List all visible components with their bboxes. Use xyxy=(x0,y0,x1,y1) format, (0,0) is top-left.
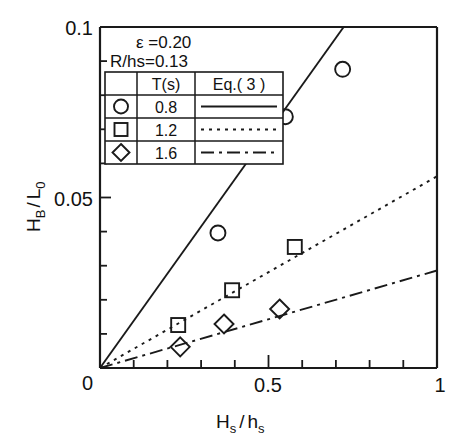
svg-text:Hs/hs: Hs/hs xyxy=(216,411,265,436)
legend-table: T(s)Eq.( 3 )0.81.21.6 xyxy=(105,72,283,164)
legend-annotations: ε =0.20 R/hs=0.13 xyxy=(110,33,191,71)
annotation-epsilon: ε =0.20 xyxy=(136,33,191,52)
x-title-h: h xyxy=(248,411,259,432)
data-point-square-0 xyxy=(171,318,185,332)
chart-figure: 0.1 0.05 0 0.5 1 Hs/hs HB/L0 ε =0.20 R/h… xyxy=(0,0,450,441)
y-tick-label-0.1: 0.1 xyxy=(65,17,93,39)
chart-svg: 0.1 0.05 0 0.5 1 Hs/hs HB/L0 ε =0.20 R/h… xyxy=(0,0,450,441)
y-axis-title: HB/L0 xyxy=(23,182,48,233)
y-title-sub-0: 0 xyxy=(33,182,48,189)
x-title-slash: / xyxy=(239,411,245,432)
series-diamond xyxy=(100,270,437,368)
fit-line-dotted xyxy=(100,176,437,368)
y-title-L: L xyxy=(23,189,44,200)
x-title-H: H xyxy=(216,411,230,432)
x-title-sub-s2: s xyxy=(258,421,265,436)
legend-header-period: T(s) xyxy=(152,76,180,93)
x-tick-label-0.5: 0.5 xyxy=(254,374,282,396)
y-tick-label-0.05: 0.05 xyxy=(54,188,93,210)
data-point-circle-2 xyxy=(335,62,350,77)
x-axis-title: Hs/hs xyxy=(216,411,265,436)
data-point-diamond-0 xyxy=(171,337,190,356)
y-title-slash: / xyxy=(23,202,44,208)
svg-text:HB/L0: HB/L0 xyxy=(23,182,48,233)
data-point-circle-0 xyxy=(210,225,225,240)
legend-period-value: 1.2 xyxy=(155,122,177,139)
x-title-sub-s: s xyxy=(230,421,237,436)
legend-header-equation: Eq.( 3 ) xyxy=(213,76,265,93)
y-title-H: H xyxy=(23,218,44,232)
annotation-r-over-hs: R/hs=0.13 xyxy=(110,52,188,71)
fit-line-dashdot xyxy=(100,270,437,368)
series-square xyxy=(100,176,437,368)
data-point-square-2 xyxy=(288,240,302,254)
x-axis-ticks xyxy=(100,355,437,368)
legend-period-value: 0.8 xyxy=(155,99,177,116)
y-title-sub-B: B xyxy=(33,210,48,219)
y-tick-label-0: 0 xyxy=(82,372,93,394)
x-tick-label-1: 1 xyxy=(434,374,445,396)
legend-period-value: 1.6 xyxy=(155,145,177,162)
